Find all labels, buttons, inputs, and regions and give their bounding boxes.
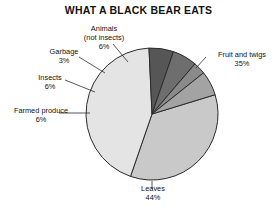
slice-label-farmed-produce: Farmed produce 6% — [2, 106, 80, 124]
slice-value-farmed-produce: 6% — [2, 115, 80, 124]
slice-value-leaves: 44% — [119, 193, 187, 202]
pie-slices-group — [86, 48, 218, 180]
slice-label-animals-line2: (not insects) — [66, 33, 142, 42]
slice-value-insects: 6% — [24, 82, 76, 91]
slice-label-fruit-and-twigs: Fruit and twigs 35% — [208, 50, 276, 68]
slice-label-farmed-produce-text: Farmed produce — [2, 106, 80, 115]
slice-label-garbage-text: Garbage — [36, 47, 92, 56]
slice-label-leaves-text: Leaves — [119, 184, 187, 193]
slice-label-insects: Insects 6% — [24, 73, 76, 91]
slice-label-garbage: Garbage 3% — [36, 47, 92, 65]
slice-label-insects-text: Insects — [24, 73, 76, 82]
slice-value-fruit-and-twigs: 35% — [208, 59, 276, 68]
slice-label-leaves: Leaves 44% — [119, 184, 187, 202]
slice-label-animals-line1: Animals — [66, 24, 142, 33]
pie-chart-figure: WHAT A BLACK BEAR EATS Animals (not inse… — [0, 0, 277, 210]
leader-line-fruit-and-twigs — [196, 57, 206, 68]
slice-value-garbage: 3% — [36, 56, 92, 65]
slice-label-fruit-and-twigs-text: Fruit and twigs — [208, 50, 276, 59]
